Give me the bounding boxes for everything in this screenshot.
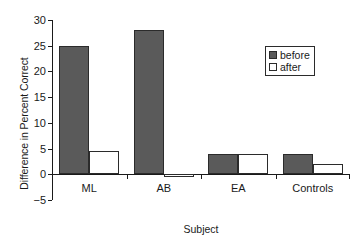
x-tick-label: ML: [82, 182, 97, 194]
x-axis-label: Subject: [52, 223, 350, 235]
bar-after: [89, 151, 119, 174]
legend-swatch-before: [269, 51, 277, 59]
x-tick-label: AB: [156, 182, 171, 194]
legend-label: before: [280, 49, 310, 61]
y-axis-line: [52, 20, 53, 200]
bar-group: [134, 20, 194, 200]
x-tick-mark: [52, 175, 53, 179]
legend-item-after: after: [269, 61, 310, 73]
x-tick-label: Controls: [292, 182, 333, 194]
bar-before: [134, 30, 164, 174]
bar-before: [283, 154, 313, 175]
y-axis-ticks: 302520151050−5: [0, 0, 52, 247]
bar-chart-figure: Difference in Percent Correct 3025201510…: [0, 0, 361, 247]
legend-swatch-after: [269, 63, 277, 71]
y-tick-mark: [48, 200, 52, 201]
chart-legend: beforeafter: [265, 46, 315, 76]
y-tick-label: 15: [34, 91, 46, 103]
legend-label: after: [280, 61, 301, 73]
bar-before: [208, 154, 238, 175]
y-tick-label: 30: [34, 14, 46, 26]
y-tick-label: −5: [33, 194, 46, 206]
y-tick-label: 10: [34, 117, 46, 129]
bar-before: [59, 46, 89, 175]
x-tick-mark: [276, 175, 277, 179]
legend-item-before: before: [269, 49, 310, 61]
bar-group: [208, 20, 268, 200]
y-tick-label: 20: [34, 65, 46, 77]
bar-after: [238, 154, 268, 175]
bar-group: [59, 20, 119, 200]
bar-after: [313, 164, 343, 174]
x-tick-mark: [127, 175, 128, 179]
x-tick-mark: [349, 175, 350, 179]
bar-after: [164, 174, 194, 177]
y-tick-label: 0: [40, 168, 46, 180]
x-tick-mark: [201, 175, 202, 179]
y-tick-label: 5: [40, 143, 46, 155]
y-tick-label: 25: [34, 40, 46, 52]
x-tick-label: EA: [231, 182, 246, 194]
